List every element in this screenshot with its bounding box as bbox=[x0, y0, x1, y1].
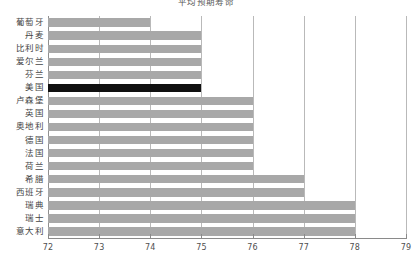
bar-奥地利 bbox=[48, 123, 253, 131]
category-axis-labels: 葡萄牙丹麦比利时爱尔兰芬兰美国卢森堡英国奥地利德国法国荷兰希腊西班牙瑞典瑞士意大… bbox=[0, 16, 46, 238]
bar-卢森堡 bbox=[48, 97, 253, 105]
category-label-比利时: 比利时 bbox=[0, 42, 44, 55]
x-tick-label-74: 74 bbox=[138, 243, 162, 252]
bar-row bbox=[48, 225, 406, 238]
category-label-葡萄牙: 葡萄牙 bbox=[0, 16, 44, 29]
category-label-希腊: 希腊 bbox=[0, 173, 44, 186]
bar-row bbox=[48, 42, 406, 55]
gridline-79 bbox=[406, 16, 407, 238]
x-axis-line bbox=[48, 238, 407, 239]
bar-比利时 bbox=[48, 45, 201, 53]
category-label-美国: 美国 bbox=[0, 81, 44, 94]
bar-英国 bbox=[48, 110, 253, 118]
bar-row bbox=[48, 147, 406, 160]
bar-row bbox=[48, 68, 406, 81]
bar-row bbox=[48, 199, 406, 212]
x-tick-76 bbox=[253, 234, 254, 239]
x-tick-label-75: 75 bbox=[189, 243, 213, 252]
x-tick-79 bbox=[406, 234, 407, 239]
x-tick-label-79: 79 bbox=[394, 243, 412, 252]
x-tick-label-72: 72 bbox=[36, 243, 60, 252]
x-tick-74 bbox=[150, 234, 151, 239]
bar-美国 bbox=[48, 84, 201, 92]
bar-法国 bbox=[48, 149, 253, 157]
category-label-丹麦: 丹麦 bbox=[0, 29, 44, 42]
category-label-芬兰: 芬兰 bbox=[0, 68, 44, 81]
bar-row bbox=[48, 160, 406, 173]
bar-row bbox=[48, 55, 406, 68]
category-label-卢森堡: 卢森堡 bbox=[0, 94, 44, 107]
bar-希腊 bbox=[48, 175, 304, 183]
bar-row bbox=[48, 173, 406, 186]
x-tick-75 bbox=[201, 234, 202, 239]
bar-瑞典 bbox=[48, 201, 355, 209]
bar-row bbox=[48, 81, 406, 94]
x-tick-77 bbox=[304, 234, 305, 239]
bar-row bbox=[48, 94, 406, 107]
category-label-意大利: 意大利 bbox=[0, 225, 44, 238]
category-label-奥地利: 奥地利 bbox=[0, 120, 44, 133]
x-tick-73 bbox=[99, 234, 100, 239]
bar-德国 bbox=[48, 136, 253, 144]
x-tick-72 bbox=[48, 234, 49, 239]
bar-row bbox=[48, 186, 406, 199]
category-label-爱尔兰: 爱尔兰 bbox=[0, 55, 44, 68]
bar-芬兰 bbox=[48, 71, 201, 79]
bar-row bbox=[48, 134, 406, 147]
bar-葡萄牙 bbox=[48, 18, 150, 26]
x-tick-label-73: 73 bbox=[87, 243, 111, 252]
bar-row bbox=[48, 120, 406, 133]
category-label-西班牙: 西班牙 bbox=[0, 186, 44, 199]
category-label-英国: 英国 bbox=[0, 107, 44, 120]
plot-area bbox=[48, 16, 406, 238]
category-label-瑞典: 瑞典 bbox=[0, 199, 44, 212]
bar-row bbox=[48, 29, 406, 42]
x-tick-78 bbox=[355, 234, 356, 239]
x-tick-label-77: 77 bbox=[292, 243, 316, 252]
category-label-瑞士: 瑞士 bbox=[0, 212, 44, 225]
x-tick-label-76: 76 bbox=[241, 243, 265, 252]
category-label-法国: 法国 bbox=[0, 147, 44, 160]
bar-荷兰 bbox=[48, 162, 253, 170]
life-expectancy-bar-chart: 平均预期寿命 葡萄牙丹麦比利时爱尔兰芬兰美国卢森堡英国奥地利德国法国荷兰希腊西班… bbox=[0, 0, 412, 268]
bar-row bbox=[48, 212, 406, 225]
x-tick-label-78: 78 bbox=[343, 243, 367, 252]
bar-丹麦 bbox=[48, 31, 201, 39]
bar-瑞士 bbox=[48, 214, 355, 222]
bar-西班牙 bbox=[48, 188, 304, 196]
bar-row bbox=[48, 107, 406, 120]
bar-row bbox=[48, 16, 406, 29]
category-label-荷兰: 荷兰 bbox=[0, 160, 44, 173]
category-label-德国: 德国 bbox=[0, 134, 44, 147]
bar-爱尔兰 bbox=[48, 58, 201, 66]
chart-title: 平均预期寿命 bbox=[0, 0, 412, 8]
